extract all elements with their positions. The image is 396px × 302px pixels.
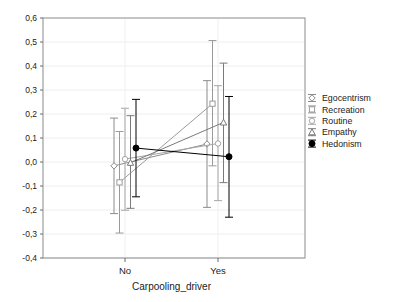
legend-symbol-marker [309,141,315,147]
error-bar-chart: 0,60,50,40,30,20,10,0-0,1-0,2-0,3-0,4NoY… [0,0,396,302]
y-axis-tick-label: 0,2 [25,109,37,119]
marker-shape [122,156,127,161]
marker-shape [117,180,122,185]
chart-background [0,0,396,302]
marker-shape [309,118,314,123]
y-axis-tick-label: 0,3 [25,85,37,95]
data-point-marker [117,180,122,185]
x-axis-category-label: No [119,265,131,276]
legend-label: Recreation [322,105,365,115]
data-point-marker [210,101,215,106]
marker-shape [210,101,215,106]
y-axis-tick-label: 0,0 [25,157,37,167]
y-axis-tick-label: -0,2 [22,205,37,215]
data-point-marker [215,141,220,146]
y-axis-tick-label: -0,3 [22,229,37,239]
y-axis-tick-label: 0,4 [25,61,37,71]
data-point-marker [226,154,232,160]
legend-label: Empathy [322,127,357,137]
legend-label: Egocentrism [322,93,371,103]
y-axis-tick-label: -0,1 [22,181,37,191]
y-axis-tick-label: -0,4 [22,253,37,263]
marker-shape [309,107,314,112]
data-point-marker [122,156,127,161]
marker-shape [309,141,315,147]
x-axis-category-label: Yes [210,265,226,276]
x-axis-title: Carpooling_driver [132,281,212,292]
legend-label: Hedonism [322,139,362,149]
legend-symbol-marker [309,118,314,123]
y-axis-tick-label: 0,1 [25,133,37,143]
marker-shape [226,154,232,160]
marker-shape [215,141,220,146]
legend-label: Routine [322,116,352,126]
y-axis-tick-label: 0,5 [25,37,37,47]
data-point-marker [133,145,139,151]
legend-symbol-marker [309,107,314,112]
marker-shape [133,145,139,151]
y-axis-tick-label: 0,6 [25,13,37,23]
legend-item-routine[interactable]: Routine [308,116,352,126]
chart-canvas: 0,60,50,40,30,20,10,0-0,1-0,2-0,3-0,4NoY… [0,0,396,302]
